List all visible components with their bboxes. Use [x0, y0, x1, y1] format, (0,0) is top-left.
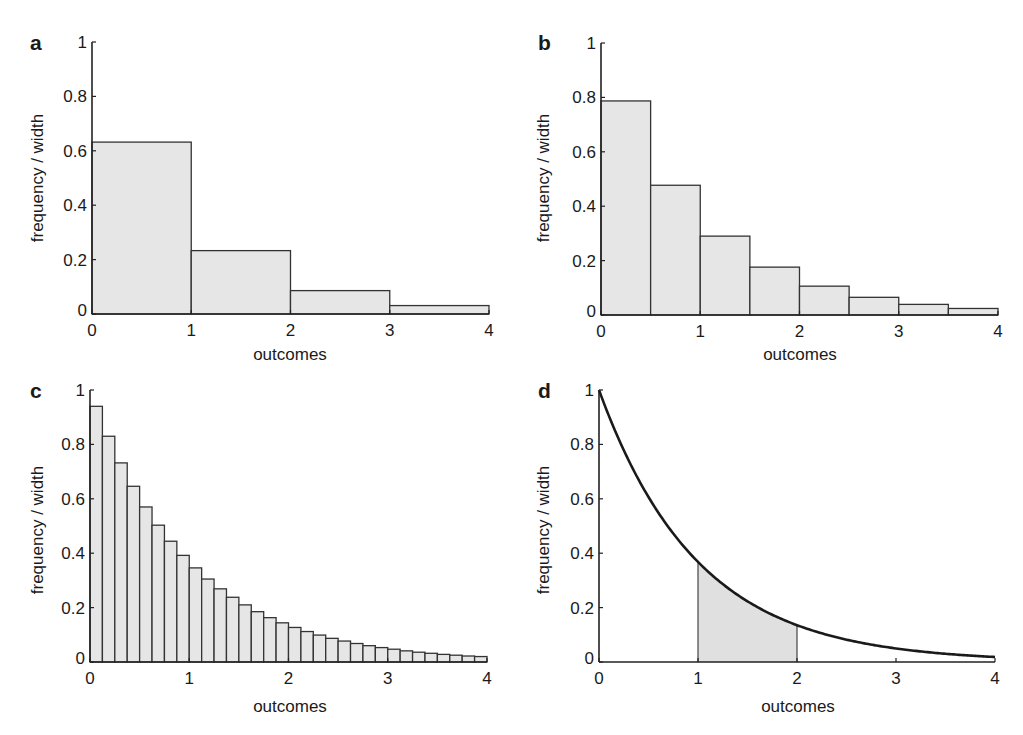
- histogram-bar: [177, 555, 189, 662]
- x-tick-label: 3: [891, 669, 900, 688]
- x-tick-label: 0: [596, 322, 605, 341]
- histogram-bar: [164, 541, 176, 662]
- y-axis-label-d: frequency / width: [534, 466, 553, 595]
- histogram-bar: [375, 648, 387, 662]
- x-tick-label: 2: [795, 322, 804, 341]
- panel-a-letter: a: [30, 31, 42, 54]
- histogram-bar: [800, 286, 850, 315]
- panel-d: d 00.20.40.60.8101234 outcomes frequency…: [512, 368, 1023, 735]
- y-axis-label-c: frequency / width: [28, 466, 47, 595]
- x-axis-label-a: outcomes: [253, 345, 327, 364]
- x-tick-label: 0: [594, 669, 603, 688]
- histogram-bar: [102, 436, 114, 662]
- x-tick-label: 4: [482, 669, 491, 688]
- y-tick-label: 0: [78, 301, 87, 320]
- x-axis-label-c: outcomes: [253, 697, 327, 716]
- x-tick-label: 0: [87, 321, 96, 340]
- histogram-bar: [189, 568, 201, 662]
- histogram-bar: [239, 605, 251, 662]
- y-tick-label: 0: [76, 649, 85, 668]
- y-tick-label: 0.6: [570, 490, 594, 509]
- panel-c: c 00.20.40.60.8101234 outcomes frequency…: [0, 368, 512, 735]
- histogram-bar: [351, 644, 363, 662]
- histogram-bar: [191, 251, 290, 314]
- y-tick-label: 0.4: [61, 544, 85, 563]
- histogram-bar: [425, 653, 437, 662]
- x-tick-label: 1: [185, 669, 194, 688]
- histogram-bar: [948, 308, 998, 315]
- y-tick-label: 0.8: [61, 435, 85, 454]
- x-tick-label: 1: [187, 321, 196, 340]
- y-tick-label: 1: [587, 34, 596, 53]
- histogram-bar: [291, 291, 390, 314]
- histogram-bar: [363, 646, 375, 662]
- y-tick-label: 0.2: [63, 251, 87, 270]
- histogram-bar: [202, 579, 214, 662]
- panel-b: b 00.20.40.60.8101234 outcomes frequency…: [512, 0, 1023, 368]
- histogram-bar: [326, 638, 338, 662]
- histogram-bar: [750, 267, 800, 315]
- x-tick-label: 4: [990, 669, 999, 688]
- y-tick-label: 0.8: [570, 435, 594, 454]
- panel-b-svg: b 00.20.40.60.8101234 outcomes frequency…: [512, 0, 1023, 368]
- panel-a-svg: a 00.20.40.60.8101234 outcomes frequency…: [0, 0, 512, 368]
- histogram-bar: [289, 627, 301, 662]
- y-tick-label: 0.4: [63, 196, 87, 215]
- histogram-bar: [400, 651, 412, 662]
- histogram-bars-b: [601, 101, 998, 315]
- y-tick-label: 0: [585, 649, 594, 668]
- density-curve-d: [599, 390, 995, 662]
- y-tick-label: 0.6: [572, 143, 596, 162]
- histogram-bar: [115, 463, 127, 662]
- panel-d-letter: d: [538, 379, 551, 402]
- y-axis-label-b: frequency / width: [534, 114, 553, 243]
- histogram-bar: [388, 649, 400, 662]
- y-tick-label: 0.2: [61, 599, 85, 618]
- histogram-bar: [226, 597, 238, 662]
- histogram-bar: [313, 635, 325, 662]
- histogram-bar: [462, 656, 474, 662]
- histogram-bar: [849, 297, 899, 315]
- x-axis-label-b: outcomes: [763, 345, 837, 364]
- x-tick-label: 3: [383, 669, 392, 688]
- x-tick-label: 4: [484, 321, 493, 340]
- histogram-bar: [127, 486, 139, 662]
- histogram-bar: [264, 618, 276, 662]
- histogram-bar: [140, 507, 152, 662]
- x-axis-label-d: outcomes: [761, 697, 835, 716]
- y-tick-label: 1: [78, 33, 87, 52]
- histogram-bar: [413, 652, 425, 662]
- histogram-bar: [700, 236, 750, 315]
- histogram-bar: [338, 641, 350, 662]
- y-tick-label: 0.6: [61, 490, 85, 509]
- histogram-bar: [390, 306, 489, 314]
- x-tick-label: 2: [284, 669, 293, 688]
- histogram-bar: [276, 623, 288, 662]
- histogram-bar: [214, 589, 226, 662]
- histogram-bar: [251, 612, 263, 662]
- panel-b-letter: b: [538, 31, 551, 54]
- panel-c-letter: c: [30, 379, 42, 402]
- x-tick-label: 4: [993, 322, 1002, 341]
- x-tick-label: 2: [792, 669, 801, 688]
- y-axis-label-a: frequency / width: [28, 114, 47, 243]
- y-tick-label: 0.4: [572, 197, 596, 216]
- histogram-bars-c: [90, 406, 487, 662]
- histogram-bar: [92, 142, 191, 314]
- y-tick-label: 1: [585, 381, 594, 400]
- x-tick-label: 1: [696, 322, 705, 341]
- histogram-bar: [651, 185, 701, 315]
- histogram-bar: [301, 632, 313, 662]
- x-tick-label: 3: [894, 322, 903, 341]
- histogram-bar: [899, 304, 949, 315]
- y-tick-label: 0.6: [63, 142, 87, 161]
- y-tick-label: 0.2: [572, 252, 596, 271]
- x-tick-label: 2: [286, 321, 295, 340]
- y-tick-label: 0.2: [570, 599, 594, 618]
- panel-c-svg: c 00.20.40.60.8101234 outcomes frequency…: [0, 368, 512, 735]
- y-tick-label: 0.8: [572, 88, 596, 107]
- panel-d-svg: d 00.20.40.60.8101234 outcomes frequency…: [512, 368, 1023, 735]
- histogram-bar: [152, 525, 164, 662]
- histogram-bar: [601, 101, 651, 315]
- exponential-curve: [599, 390, 995, 657]
